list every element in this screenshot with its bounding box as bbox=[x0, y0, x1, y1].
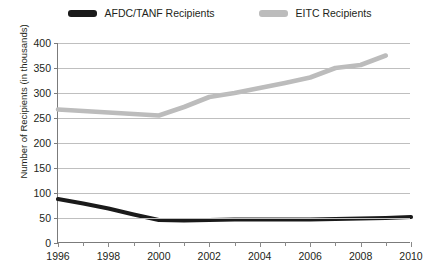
y-tick-label: 0 bbox=[45, 237, 51, 249]
x-tick-mark-minor bbox=[285, 242, 286, 246]
y-axis-title: Number of Recipients (in thousands) bbox=[18, 17, 29, 187]
plot-area: 0501001502002503003504001996199820002002… bbox=[57, 43, 410, 243]
y-tick-mark bbox=[54, 43, 58, 44]
x-tick-mark-minor bbox=[386, 242, 387, 246]
gridline bbox=[58, 218, 410, 219]
x-tick-mark-minor bbox=[184, 242, 185, 246]
x-tick-mark bbox=[310, 242, 311, 247]
x-tick-label: 1996 bbox=[46, 250, 69, 262]
y-tick-label: 100 bbox=[33, 187, 51, 199]
x-tick-mark bbox=[411, 242, 412, 247]
y-tick-label: 350 bbox=[33, 62, 51, 74]
x-tick-label: 2006 bbox=[298, 250, 321, 262]
x-tick-mark bbox=[209, 242, 210, 247]
y-tick-mark bbox=[54, 143, 58, 144]
x-tick-label: 2010 bbox=[399, 250, 422, 262]
x-tick-mark bbox=[58, 242, 59, 247]
y-tick-label: 50 bbox=[39, 212, 51, 224]
gridline bbox=[58, 143, 410, 144]
legend-swatch-eitc-icon bbox=[259, 10, 288, 17]
y-tick-mark bbox=[54, 168, 58, 169]
gridline bbox=[58, 193, 410, 194]
gridline bbox=[58, 93, 410, 94]
x-tick-mark-minor bbox=[134, 242, 135, 246]
chart-container: AFDC/TANF Recipients EITC Recipients Num… bbox=[0, 0, 439, 274]
y-tick-mark bbox=[54, 218, 58, 219]
gridline bbox=[58, 43, 410, 44]
legend-entry-eitc: EITC Recipients bbox=[259, 8, 372, 19]
legend-label-afdc: AFDC/TANF Recipients bbox=[105, 8, 215, 19]
legend-entry-afdc: AFDC/TANF Recipients bbox=[68, 8, 215, 19]
x-tick-mark bbox=[260, 242, 261, 247]
y-tick-label: 250 bbox=[33, 112, 51, 124]
x-tick-mark bbox=[159, 242, 160, 247]
x-tick-label: 2002 bbox=[198, 250, 221, 262]
x-tick-label: 2000 bbox=[147, 250, 170, 262]
x-tick-mark-minor bbox=[83, 242, 84, 246]
series-line-eitc bbox=[58, 56, 386, 116]
y-tick-mark bbox=[54, 68, 58, 69]
y-tick-mark bbox=[54, 118, 58, 119]
gridline bbox=[58, 68, 410, 69]
x-tick-label: 2008 bbox=[349, 250, 372, 262]
y-tick-label: 400 bbox=[33, 37, 51, 49]
y-tick-mark bbox=[54, 193, 58, 194]
y-tick-mark bbox=[54, 93, 58, 94]
x-tick-mark bbox=[108, 242, 109, 247]
y-tick-label: 150 bbox=[33, 162, 51, 174]
x-tick-mark-minor bbox=[335, 242, 336, 246]
legend-label-eitc: EITC Recipients bbox=[296, 8, 372, 19]
x-tick-mark-minor bbox=[235, 242, 236, 246]
legend-swatch-afdc-icon bbox=[68, 10, 97, 17]
y-tick-label: 200 bbox=[33, 137, 51, 149]
gridline bbox=[58, 118, 410, 119]
gridline bbox=[58, 168, 410, 169]
x-tick-mark bbox=[361, 242, 362, 247]
x-tick-label: 1998 bbox=[97, 250, 120, 262]
chart-legend: AFDC/TANF Recipients EITC Recipients bbox=[0, 8, 439, 19]
y-tick-label: 300 bbox=[33, 87, 51, 99]
x-tick-label: 2004 bbox=[248, 250, 271, 262]
